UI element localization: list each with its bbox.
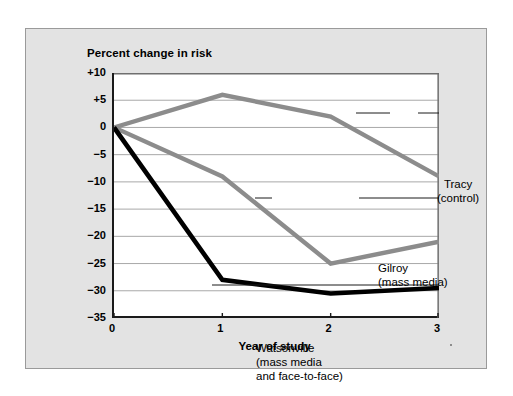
x-tick-label: 3 <box>424 322 450 334</box>
figure-root: Percent change in risk Tracy (control) G… <box>0 0 513 396</box>
y-tick-label: −20 <box>72 229 106 241</box>
y-tick-label: −15 <box>72 202 106 214</box>
y-tick-label: −25 <box>72 257 106 269</box>
series-label-tracy-line2: (control) <box>437 191 479 205</box>
x-tick-label: 2 <box>316 322 342 334</box>
series-label-watsonville-line3: and face-to-face) <box>256 369 343 383</box>
series-label-tracy: Tracy (control) <box>437 177 479 205</box>
series-line <box>114 95 439 177</box>
x-tick-label: 0 <box>99 322 125 334</box>
y-tick-label: −30 <box>72 284 106 296</box>
stray-speck <box>450 344 452 346</box>
series-label-gilroy-line2: (mass media) <box>378 275 448 289</box>
series-label-tracy-line1: Tracy <box>437 177 479 191</box>
plot-area: Tracy (control) Gilroy (mass media) Wats… <box>112 73 437 318</box>
x-tick-label: 1 <box>207 322 233 334</box>
y-tick-label: +5 <box>72 93 106 105</box>
series-label-watsonville-line2: (mass media <box>256 355 343 369</box>
series-label-gilroy: Gilroy (mass media) <box>378 261 448 289</box>
y-tick-label: −5 <box>72 148 106 160</box>
x-tick-marks <box>114 313 438 318</box>
series-label-gilroy-line1: Gilroy <box>378 261 448 275</box>
chart-title: Percent change in risk <box>87 47 212 59</box>
y-tick-label: +10 <box>72 66 106 78</box>
x-axis-title: Year of study <box>112 340 437 352</box>
y-tick-label: −10 <box>72 175 106 187</box>
y-tick-label: 0 <box>72 120 106 132</box>
